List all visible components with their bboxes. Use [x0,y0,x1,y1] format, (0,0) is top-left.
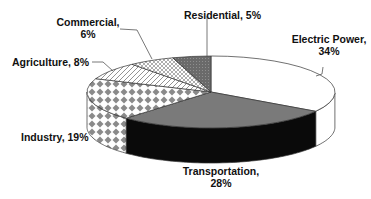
label-residential: Residential, 5% [184,9,261,21]
label-industry-text: Industry, 19% [21,131,89,143]
leader-agriculture [92,62,113,71]
label-industry: Industry, 19% [21,131,89,143]
label-agriculture: Agriculture, 8% [12,56,89,68]
label-commercial-name: Commercial, [53,16,123,28]
label-commercial-pct: 6% [53,28,123,40]
label-transportation: Transportation, 28% [176,165,266,189]
label-electric-name: Electric Power, [287,33,371,45]
pie-body [87,56,335,163]
leader-commercial [120,29,152,59]
label-agriculture-text: Agriculture, 8% [12,56,89,68]
label-electric-pct: 34% [287,45,371,57]
label-residential-text: Residential, 5% [184,9,261,21]
label-electric-power: Electric Power, 34% [287,33,371,57]
label-transportation-name: Transportation, [176,165,266,177]
label-commercial: Commercial, 6% [53,16,123,40]
label-transportation-pct: 28% [176,177,266,189]
